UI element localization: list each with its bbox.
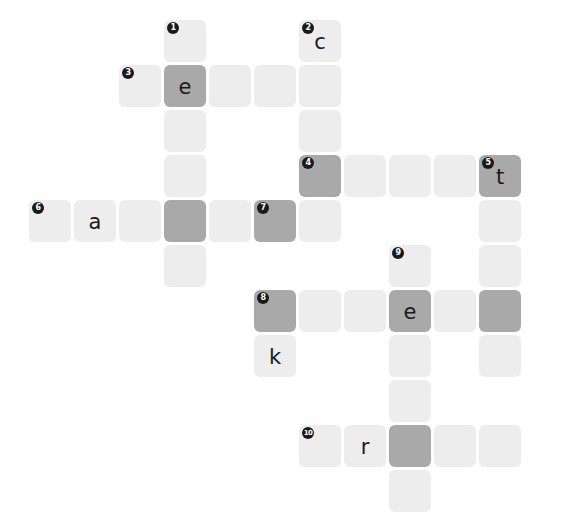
clue-number-badge: 6 <box>32 202 44 214</box>
crossword-cell[interactable] <box>209 65 251 107</box>
crossword-cell[interactable] <box>299 110 341 152</box>
crossword-cell[interactable] <box>479 245 521 287</box>
crossword-cell[interactable]: e <box>389 290 431 332</box>
crossword-cell[interactable] <box>254 65 296 107</box>
crossword-cell[interactable]: 3 <box>119 65 161 107</box>
crossword-cell[interactable]: 7 <box>254 200 296 242</box>
crossword-cell[interactable]: 2c <box>299 20 341 62</box>
cell-letter: e <box>164 65 206 107</box>
clue-number-badge: 10 <box>302 427 314 439</box>
crossword-cell[interactable] <box>344 290 386 332</box>
crossword-cell[interactable]: 1 <box>164 20 206 62</box>
crossword-cell[interactable] <box>164 245 206 287</box>
crossword-cell[interactable] <box>479 335 521 377</box>
crossword-cell[interactable]: 10 <box>299 425 341 467</box>
crossword-cell[interactable] <box>389 335 431 377</box>
crossword-cell[interactable] <box>389 425 431 467</box>
cell-letter: r <box>344 425 386 467</box>
crossword-cell[interactable]: k <box>254 335 296 377</box>
crossword-cell[interactable]: 6 <box>29 200 71 242</box>
crossword-cell[interactable] <box>299 200 341 242</box>
crossword-cell[interactable] <box>479 200 521 242</box>
crossword-cell[interactable] <box>389 155 431 197</box>
crossword-cell[interactable]: 4 <box>299 155 341 197</box>
cell-letter: t <box>479 155 521 197</box>
crossword-cell[interactable] <box>389 470 431 512</box>
clue-number-badge: 1 <box>167 22 179 34</box>
crossword-cell[interactable] <box>434 155 476 197</box>
crossword-cell[interactable]: 9 <box>389 245 431 287</box>
clue-number-badge: 4 <box>302 157 314 169</box>
crossword-cell[interactable] <box>434 425 476 467</box>
crossword-cell[interactable] <box>479 425 521 467</box>
crossword-cell[interactable] <box>389 380 431 422</box>
crossword-cell[interactable] <box>119 200 161 242</box>
cell-letter: k <box>254 335 296 377</box>
crossword-cell[interactable] <box>164 155 206 197</box>
crossword-cell[interactable]: 5t <box>479 155 521 197</box>
crossword-cell[interactable] <box>299 65 341 107</box>
crossword-cell[interactable] <box>479 290 521 332</box>
cell-letter: a <box>74 200 116 242</box>
crossword-cell[interactable]: e <box>164 65 206 107</box>
crossword-cell[interactable]: 8 <box>254 290 296 332</box>
clue-number-badge: 3 <box>122 67 134 79</box>
clue-number-badge: 7 <box>257 202 269 214</box>
crossword-cell[interactable] <box>434 290 476 332</box>
clue-number-badge: 8 <box>257 292 269 304</box>
crossword-cell[interactable] <box>344 155 386 197</box>
crossword-cell[interactable]: a <box>74 200 116 242</box>
cell-letter: e <box>389 290 431 332</box>
crossword-cell[interactable] <box>164 110 206 152</box>
crossword-cell[interactable] <box>164 200 206 242</box>
cell-letter: c <box>299 20 341 62</box>
crossword-cell[interactable]: r <box>344 425 386 467</box>
crossword-cell[interactable] <box>209 200 251 242</box>
clue-number-badge: 9 <box>392 247 404 259</box>
crossword-cell[interactable] <box>299 290 341 332</box>
